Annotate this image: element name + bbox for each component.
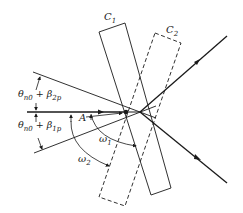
omega1-arc	[91, 114, 136, 146]
crystal-c1	[99, 23, 171, 195]
label-omega2: ω2	[78, 154, 91, 167]
lower-angle-arrow	[38, 138, 42, 149]
incident-arrow-icon	[98, 110, 104, 115]
label-c1: C1	[104, 12, 116, 25]
label-upper-angle: θn0 + β2p	[18, 89, 61, 102]
ray-diagram	[0, 0, 243, 213]
label-c2: C2	[166, 25, 178, 38]
label-omega1: ω1	[99, 134, 112, 147]
reflected-ray-upper	[140, 36, 227, 112]
reflected-ray-lower	[140, 112, 227, 183]
label-lower-angle: θn0 + β1p	[18, 120, 61, 133]
lower-ray-arrow-icon	[194, 154, 201, 160]
label-point-a: A	[79, 113, 86, 123]
